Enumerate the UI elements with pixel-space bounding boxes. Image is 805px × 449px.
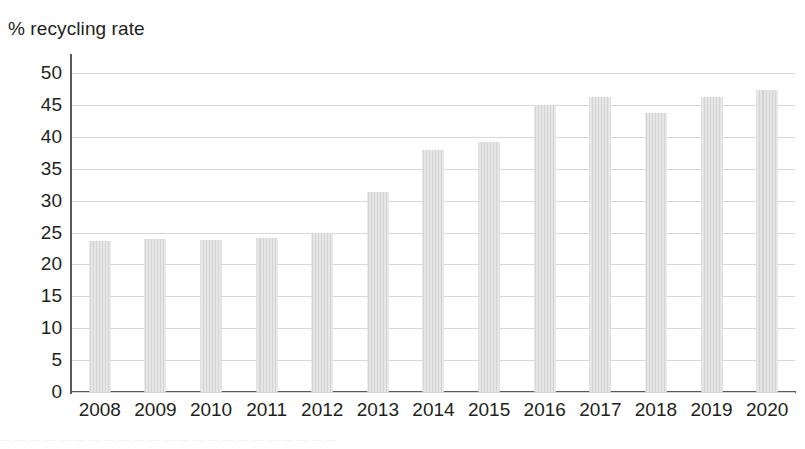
bar [256,238,277,392]
bar-slot [128,73,184,392]
x-axis-tick-label: 2015 [461,397,517,423]
x-axis-tick-label: 2017 [573,397,629,423]
bar [367,192,388,392]
y-axis-tick-label: 35 [8,159,62,178]
bar [479,142,500,392]
page-bottom-fragment: — — — — — — — — — — — — — — — — — — — — … [0,432,805,449]
x-axis-tick-label: 2009 [128,397,184,423]
x-axis-tick-label: 2012 [294,397,350,423]
y-axis-tick-label: 50 [8,63,62,82]
bar [312,233,333,393]
y-axis-tick-label: 0 [8,382,62,401]
y-axis-tick-label: 45 [8,95,62,114]
gridline [72,392,795,393]
bar [145,239,166,392]
bar [534,105,555,392]
bar-slot [406,73,462,392]
bar-slot [461,73,517,392]
bar [590,97,611,392]
y-axis-tick-label: 15 [8,286,62,305]
x-axis-tick-label: 2019 [684,397,740,423]
bar-slot [183,73,239,392]
y-axis-tick-label: 20 [8,254,62,273]
recycling-rate-bar-chart: % recycling rate 50454035302520151050 20… [0,0,805,449]
x-axis-tick-label: 2008 [72,397,128,423]
y-axis-tick-label: 10 [8,318,62,337]
y-axis-tick-labels: 50454035302520151050 [0,73,62,392]
bar-slot [350,73,406,392]
x-axis-tick-label: 2011 [239,397,295,423]
bar [423,150,444,392]
plot-area [72,73,795,392]
bar-slot [573,73,629,392]
x-axis-tick-label: 2018 [628,397,684,423]
bar-slot [684,73,740,392]
x-axis-tick-label: 2013 [350,397,406,423]
x-axis-tick-labels: 2008200920102011201220132014201520162017… [72,397,795,427]
bar-slot [517,73,573,392]
bar-slot [628,73,684,392]
bar-slot [239,73,295,392]
x-axis-tick-label: 2010 [183,397,239,423]
bar [201,240,222,392]
y-axis-tick-label: 30 [8,191,62,210]
bar [89,241,110,392]
bar [645,113,666,392]
x-axis-tick-label: 2014 [406,397,462,423]
chart-title: % recycling rate [8,18,145,40]
bar-slot [739,73,795,392]
x-axis-tick-label: 2016 [517,397,573,423]
bar [701,97,722,392]
bar-slot [72,73,128,392]
y-axis-tick-label: 5 [8,350,62,369]
bar [757,90,778,392]
x-axis-tick-label: 2020 [739,397,795,423]
bar-slot [294,73,350,392]
y-axis-tick-label: 25 [8,223,62,242]
y-axis-tick-label: 40 [8,127,62,146]
